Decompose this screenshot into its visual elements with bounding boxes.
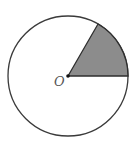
center-label: O	[54, 74, 65, 89]
circle-diagram: O	[0, 0, 133, 141]
center-point	[66, 74, 70, 78]
